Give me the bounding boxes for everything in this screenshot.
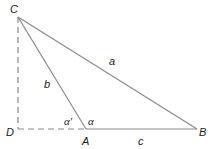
side-a — [18, 17, 197, 129]
side-label-a: a — [109, 55, 115, 67]
side-label-c: c — [138, 135, 144, 147]
angle-label-alpha: α — [88, 115, 94, 127]
vertex-label-a: A — [81, 135, 89, 147]
vertex-label-c: C — [10, 3, 18, 15]
side-b — [18, 17, 86, 129]
side-label-b: b — [44, 78, 50, 90]
vertex-label-d: D — [6, 126, 14, 138]
triangle-diagram: C D A B a b c α′ α — [0, 0, 212, 149]
angle-label-alpha-prime: α′ — [64, 115, 73, 127]
vertex-label-b: B — [199, 126, 206, 138]
